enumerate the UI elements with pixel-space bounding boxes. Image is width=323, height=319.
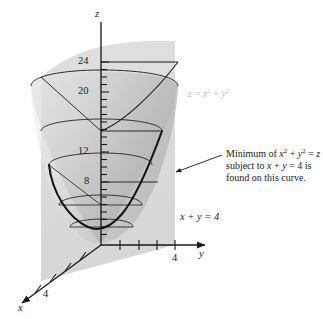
z-tick-label-8: 8 [84, 175, 89, 188]
z-tick-label-20: 20 [78, 85, 89, 98]
x-axis-label: x [18, 302, 23, 315]
callout-l1-pre: Minimum of [226, 148, 279, 159]
callout-line-2: subject to x + y = 4 is [226, 160, 320, 172]
callout-text: Minimum of x2 + y2 = z subject to x + y … [226, 148, 320, 185]
callout-line-3: found on this curve. [226, 172, 320, 184]
callout-l1-equals: = [306, 148, 317, 159]
lagrange-multiplier-figure: z 24 20 12 8 4 y 4 x z = x2 + y2 x + y =… [0, 0, 323, 319]
callout-l1-plus: + [287, 148, 298, 159]
callout-arrow [176, 155, 222, 172]
surface-eq-equals: = [192, 89, 203, 99]
z-tick-label-12: 12 [78, 145, 89, 158]
callout-line-1: Minimum of x2 + y2 = z [226, 148, 320, 160]
y-tick-label-4: 4 [172, 252, 177, 265]
surface-equation-label: z = x2 + y2 [188, 89, 229, 101]
callout-l2-mid: + [272, 160, 283, 171]
surface-eq-plus: + [210, 89, 221, 99]
plane-equation-label: x + y = 4 [180, 211, 219, 224]
z-axis-label: z [95, 8, 99, 21]
z-tick-label-24: 24 [78, 55, 89, 68]
surface-eq-y-exponent: 2 [226, 87, 229, 94]
callout-l2-pre: subject to [226, 160, 267, 171]
callout-l1-z: z [316, 148, 320, 159]
callout-l2-post: = 4 is [287, 160, 312, 171]
x-tick-label-4: 4 [43, 288, 48, 301]
y-axis-label: y [199, 248, 204, 261]
